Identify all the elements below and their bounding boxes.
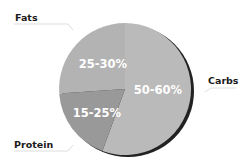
protein-value: 15-25%: [73, 106, 122, 120]
carbs-label: Carbs: [208, 75, 239, 86]
pie-chart: 25-30% 50-60% 15-25% Fats Carbs Protein: [0, 0, 250, 168]
protein-label: Protein: [14, 139, 53, 150]
fats-label: Fats: [15, 12, 38, 23]
fats-leader: [14, 24, 73, 30]
carbs-value: 50-60%: [134, 83, 183, 97]
carbs-leader: [205, 88, 236, 92]
fats-value: 25-30%: [79, 57, 128, 71]
